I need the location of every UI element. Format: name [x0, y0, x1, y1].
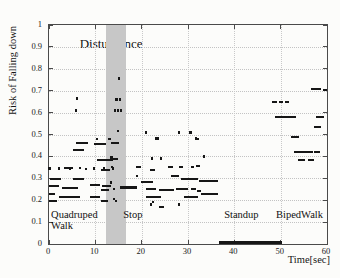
phase-label-line: Walk	[51, 220, 98, 232]
y-tick-label: 0.8	[0, 63, 42, 73]
data-segment	[311, 88, 321, 90]
zero-risk-segment	[219, 241, 282, 244]
data-segment	[314, 151, 319, 153]
y-tick-mark-right	[323, 244, 327, 245]
y-tick-mark-right	[323, 156, 327, 157]
data-segment	[90, 184, 100, 186]
x-tick-mark-top	[234, 25, 235, 29]
y-tick-label: 0.2	[0, 194, 42, 204]
data-segment	[291, 136, 299, 138]
x-tick-mark-top	[188, 25, 189, 29]
data-segment	[146, 188, 156, 190]
data-segment	[76, 142, 88, 144]
y-tick-mark	[49, 112, 53, 113]
y-tick-mark-right	[323, 112, 327, 113]
data-point	[203, 155, 205, 157]
data-segment	[314, 126, 321, 128]
data-segment	[308, 159, 314, 161]
data-point	[69, 167, 71, 169]
y-tick-label: 0.9	[0, 41, 42, 51]
x-tick-label: 50	[265, 246, 295, 256]
data-point	[115, 200, 117, 202]
data-segment	[191, 188, 196, 190]
data-point	[113, 198, 115, 200]
x-tick-mark-top	[327, 25, 328, 29]
data-segment	[141, 181, 153, 183]
data-segment	[272, 101, 277, 103]
y-tick-mark-right	[323, 200, 327, 201]
x-tick-mark-top	[141, 25, 142, 29]
x-tick-label: 20	[126, 246, 156, 256]
data-point	[111, 166, 113, 168]
phase-label-line: Standup	[224, 209, 258, 221]
data-segment	[49, 185, 59, 187]
data-segment	[49, 200, 57, 202]
y-tick-mark	[49, 25, 53, 26]
phase-label-bipedwalk: BipedWalk	[276, 209, 323, 221]
x-tick-label: 0	[33, 246, 63, 256]
data-segment	[181, 178, 199, 180]
data-segment	[150, 169, 155, 171]
y-tick-mark	[49, 244, 53, 245]
data-point	[117, 130, 119, 132]
data-point	[119, 98, 121, 100]
data-point	[178, 131, 180, 133]
data-point	[152, 201, 154, 203]
data-segment	[73, 178, 84, 180]
data-point	[76, 97, 78, 99]
data-point	[108, 138, 110, 140]
data-segment	[298, 159, 304, 161]
y-tick-label: 1	[0, 19, 42, 29]
x-tick-mark	[95, 240, 96, 244]
data-point	[48, 167, 50, 169]
data-segment	[196, 165, 200, 167]
data-segment	[113, 158, 119, 160]
data-segment	[159, 206, 164, 208]
y-tick-label: 0.7	[0, 85, 42, 95]
data-segment	[191, 166, 194, 168]
data-point	[58, 167, 60, 169]
x-tick-label: 10	[79, 246, 109, 256]
data-point	[155, 137, 157, 139]
data-segment	[111, 142, 119, 144]
x-tick-mark	[141, 240, 142, 244]
data-segment	[62, 187, 78, 189]
data-segment	[316, 116, 324, 118]
data-segment	[50, 178, 61, 180]
data-point	[118, 77, 120, 79]
data-segment	[102, 185, 111, 187]
y-tick-label: 0.1	[0, 216, 42, 226]
phase-label-line: BipedWalk	[276, 209, 323, 221]
data-segment	[323, 89, 327, 91]
y-tick-mark	[49, 134, 53, 135]
data-point	[110, 181, 112, 183]
data-segment	[101, 200, 108, 202]
data-point	[189, 131, 191, 133]
plot-area: Disturbance QuadrupedWalkStopStandupBipe…	[48, 24, 328, 245]
data-point	[115, 98, 117, 100]
data-segment	[197, 190, 201, 192]
data-segment	[184, 196, 198, 198]
data-point	[151, 157, 153, 159]
data-point	[85, 168, 87, 170]
phase-label-standup: Standup	[224, 209, 258, 221]
data-point	[160, 157, 162, 159]
data-segment	[49, 193, 55, 195]
data-point	[150, 203, 152, 205]
data-segment	[168, 166, 173, 168]
data-point	[145, 131, 147, 133]
phase-label-stop: Stop	[123, 209, 142, 221]
data-point	[136, 175, 138, 177]
y-tick-label: 0.5	[0, 129, 42, 139]
data-segment	[285, 101, 289, 103]
data-point	[114, 109, 116, 111]
y-tick-mark-right	[323, 178, 327, 179]
phase-label-quadruped-walk: QuadrupedWalk	[51, 209, 98, 232]
v-gridline	[188, 25, 189, 244]
y-tick-mark-right	[323, 25, 327, 26]
data-point	[120, 109, 122, 111]
data-point	[93, 167, 95, 169]
y-tick-mark	[49, 156, 53, 157]
y-tick-mark-right	[323, 68, 327, 69]
data-segment	[199, 180, 218, 182]
